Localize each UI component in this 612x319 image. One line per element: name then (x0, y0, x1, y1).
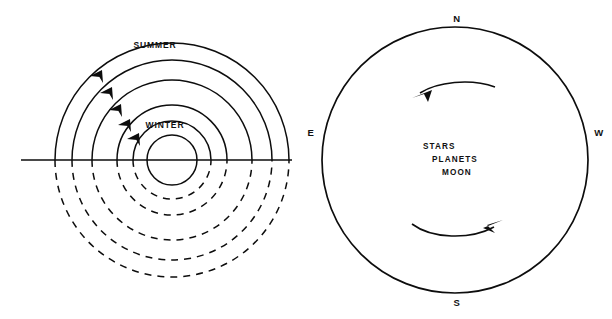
right-panel-celestial-sphere: N E W S STARS PLANETS MOON (308, 13, 604, 308)
arc-late-lower (72, 160, 272, 260)
object-planets: PLANETS (432, 155, 478, 164)
arc-early-lower (117, 160, 227, 215)
motion-arrow-lower (412, 220, 503, 236)
motion-arrow-lower-shaft (412, 224, 494, 236)
cardinal-e: E (308, 127, 315, 138)
arrowhead-winter (127, 133, 140, 146)
object-moon: MOON (442, 168, 472, 177)
arc-arrowheads (90, 70, 140, 146)
cardinal-w: W (594, 127, 603, 138)
cardinal-n: N (453, 13, 460, 24)
left-panel-seasonal-sun-paths: SUMMER WINTER (21, 40, 292, 277)
arc-winter-lower (133, 160, 211, 199)
arrowhead-early (118, 119, 131, 132)
arrowhead-equinox (109, 104, 122, 117)
label-winter: WINTER (146, 120, 185, 130)
arc-equinox-lower (92, 160, 252, 240)
motion-arrow-upper (412, 82, 495, 102)
label-summer: SUMMER (133, 40, 176, 50)
arrowhead-summer (90, 70, 103, 83)
object-stars: STARS (423, 142, 456, 151)
astronomy-diagram: SUMMER WINTER N E W S STARS PLANETS MOON (0, 0, 612, 319)
cardinal-s: S (454, 297, 461, 308)
